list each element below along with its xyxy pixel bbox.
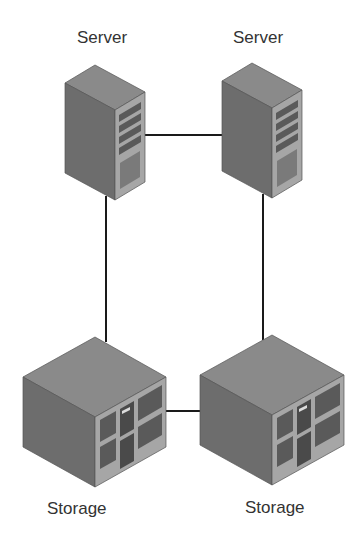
storage-node-1[interactable]: Storage: [23, 337, 166, 518]
server-icon: [65, 65, 145, 200]
server-label: Server: [77, 28, 127, 47]
network-diagram: Server Server Storage: [0, 0, 359, 540]
server-node-1[interactable]: Server: [65, 28, 145, 200]
storage-icon: [23, 337, 166, 487]
storage-icon: [200, 335, 344, 485]
server-label: Server: [233, 28, 283, 47]
server-node-2[interactable]: Server: [222, 28, 302, 198]
storage-node-2[interactable]: Storage: [200, 335, 344, 517]
storage-label: Storage: [47, 499, 107, 518]
storage-label: Storage: [245, 498, 305, 517]
server-icon: [222, 63, 302, 198]
